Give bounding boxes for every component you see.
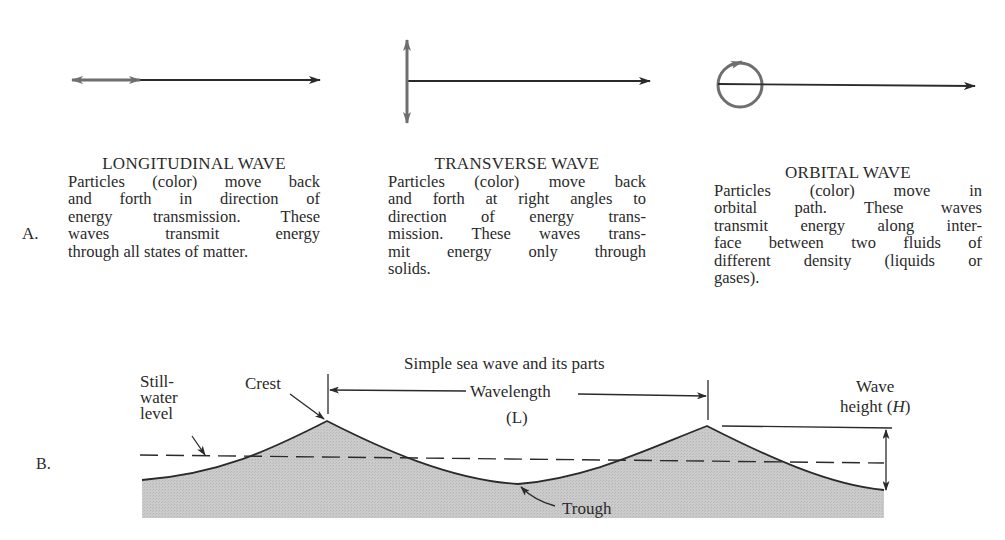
description-line: gases). [714, 269, 982, 287]
wavelength-symbol: (L) [506, 409, 528, 426]
orbital-wave-column: ORBITAL WAVE Particles (color) move in o… [714, 164, 982, 287]
sea-wave-profile [142, 421, 884, 518]
sea-wave-title: Simple sea wave and its parts [404, 355, 605, 372]
transverse-wave-column: TRANSVERSE WAVE Particles (color) move b… [388, 155, 646, 278]
orbital-wave-title: ORBITAL WAVE [714, 164, 982, 182]
transverse-wave-title: TRANSVERSE WAVE [388, 155, 646, 173]
description-line: mit energy only through [388, 243, 646, 261]
part-b-label: B. [36, 455, 51, 472]
description-line: waves transmit energy [68, 225, 320, 243]
wave-height-paren: ) [905, 397, 911, 416]
description-line: through all states of matter. [68, 243, 320, 261]
description-line: orbital path. These waves [714, 199, 982, 217]
crest-label: Crest [245, 375, 281, 392]
description-line: and forth at right angles to [388, 190, 646, 208]
wave-height-label-line: height (H) [840, 398, 910, 415]
description-line: energy transmission. These [68, 208, 320, 226]
longitudinal-wave-title: LONGITUDINAL WAVE [68, 155, 320, 173]
description-line: mission. These waves trans- [388, 225, 646, 243]
description-line: direction of energy trans- [388, 208, 646, 226]
description-line: Particles (color) move back [68, 173, 320, 191]
still-water-label-line: level [140, 406, 178, 422]
wave-height-label-line: Wave [840, 378, 910, 395]
description-line: transmit energy along inter- [714, 217, 982, 235]
wave-height-label: Wave height (H) [840, 378, 910, 415]
still-water-label: Still- water level [140, 374, 178, 422]
wave-height-symbol: H [892, 397, 904, 416]
description-line: and forth in direction of [68, 190, 320, 208]
longitudinal-wave-column: LONGITUDINAL WAVE Particles (color) move… [68, 155, 320, 260]
wave-height-text: height ( [840, 397, 892, 416]
description-line: different density (liquids or [714, 252, 982, 270]
still-water-pointer [192, 436, 205, 455]
transverse-arrow-icon [407, 40, 650, 123]
part-a-label: A. [22, 225, 39, 242]
trough-label: Trough [562, 500, 611, 517]
description-line: solids. [388, 260, 646, 278]
crest-pointer [290, 394, 324, 419]
description-line: Particles (color) move in [714, 182, 982, 200]
description-line: Particles (color) move back [388, 173, 646, 191]
orbital-arrow-icon [718, 62, 975, 107]
wavelength-label: Wavelength [470, 383, 551, 400]
description-line: face between two fluids of [714, 234, 982, 252]
